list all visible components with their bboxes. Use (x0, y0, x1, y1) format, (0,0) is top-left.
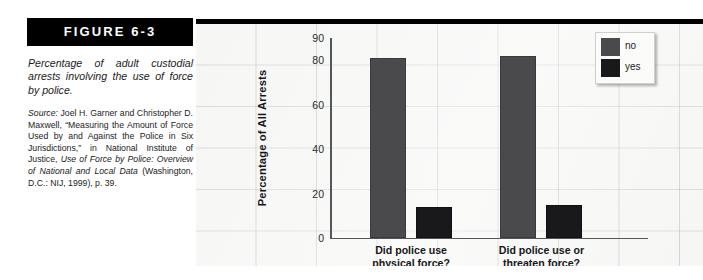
category-label-line: physical force? (351, 257, 471, 266)
y-axis-title: Percentage of All Arrests (256, 70, 268, 207)
figure-source-note: Source: Joel H. Garner and Christopher D… (28, 108, 193, 189)
figure-number-label: FIGURE 6-3 (27, 18, 193, 46)
y-axis-tick-label: 0 (318, 232, 324, 244)
y-axis-tick-label: 20 (312, 188, 324, 200)
y-axis-tick-label: 60 (312, 99, 324, 111)
category-label-line: threaten force? (481, 257, 601, 266)
category-label-line: Did police use (351, 244, 471, 257)
chart-panel: Percentage of All Arrests 02040608090 Di… (196, 19, 703, 266)
bar-no-2 (500, 56, 536, 238)
category-label-line: Did police use or (481, 244, 601, 257)
figure-header-bar: FIGURE 6-3 (27, 18, 193, 46)
caption-column: FIGURE 6-3 Percentage of adult custodial… (27, 18, 193, 268)
bar-yes-1 (416, 207, 452, 238)
x-axis-category-label: Did police use orthreaten force? (481, 244, 601, 266)
y-axis-tick-label: 40 (312, 143, 324, 155)
legend-label-no: no (625, 40, 636, 51)
figure-caption-text: Percentage of adult custodial arrests in… (28, 57, 193, 97)
bar-no-1 (370, 58, 406, 238)
y-axis-tick-label: 90 (312, 32, 324, 44)
header-rule (196, 19, 703, 24)
legend-swatch-yes-icon (601, 59, 620, 77)
y-axis-line (330, 38, 332, 239)
legend-item-yes[interactable]: yes (601, 58, 651, 78)
source-label: Source: (28, 108, 58, 118)
chart-legend: no yes (595, 32, 655, 84)
legend-item-no[interactable]: no (601, 37, 651, 57)
bar-yes-2 (546, 205, 582, 238)
x-axis-category-label: Did police usephysical force? (351, 244, 471, 266)
y-axis-tick-label: 80 (312, 54, 324, 66)
legend-swatch-no-icon (601, 38, 620, 56)
figure-container: FIGURE 6-3 Percentage of adult custodial… (0, 0, 703, 280)
legend-label-yes: yes (625, 61, 641, 72)
